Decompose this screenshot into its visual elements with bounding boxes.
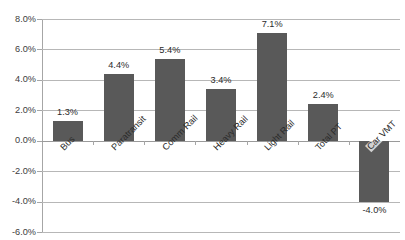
y-axis-tick-label: 6.0% (2, 45, 36, 54)
x-axis-tick (298, 141, 299, 145)
y-axis-tick-label: -6.0% (2, 228, 36, 237)
bar-chart: 8.0%6.0%4.0%2.0%0.0%-2.0%-4.0%-6.0% 1.3%… (0, 0, 405, 240)
bar-value-label: 2.4% (295, 91, 351, 100)
bar-value-label: 7.1% (244, 20, 300, 29)
y-axis-tick (37, 202, 42, 203)
gridline (42, 171, 400, 172)
x-axis-tick (195, 141, 196, 145)
y-axis-tick (37, 141, 42, 142)
bar-value-label: 4.4% (91, 61, 147, 70)
x-axis-tick (144, 141, 145, 145)
x-axis-tick (247, 141, 248, 145)
y-axis-tick (37, 232, 42, 233)
y-axis-tick (37, 171, 42, 172)
x-axis-tick (349, 141, 350, 145)
y-axis-tick-label: 2.0% (2, 106, 36, 115)
plot-area (42, 19, 400, 232)
bar-value-label: 1.3% (40, 108, 96, 117)
y-axis-tick-label: -2.0% (2, 167, 36, 176)
bar (359, 141, 389, 202)
bar-value-label: -4.0% (346, 206, 402, 215)
gridline (42, 202, 400, 203)
gridline (42, 19, 400, 20)
y-axis-tick-label: -4.0% (2, 197, 36, 206)
y-axis-tick-label: 0.0% (2, 136, 36, 145)
gridline (42, 49, 400, 50)
y-axis-tick (37, 80, 42, 81)
bar-value-label: 5.4% (142, 46, 198, 55)
y-axis-tick-label: 4.0% (2, 75, 36, 84)
y-axis-labels: 8.0%6.0%4.0%2.0%0.0%-2.0%-4.0%-6.0% (0, 0, 36, 240)
y-axis-tick (37, 110, 42, 111)
gridline (42, 232, 400, 233)
y-axis-tick (37, 19, 42, 20)
bar-value-label: 3.4% (193, 76, 249, 85)
y-axis-tick-label: 8.0% (2, 15, 36, 24)
y-axis-tick (37, 49, 42, 50)
x-axis-tick (93, 141, 94, 145)
